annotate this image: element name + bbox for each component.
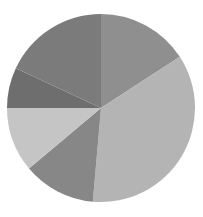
pie-chart-canvas xyxy=(0,0,203,217)
pie-chart-figure: Grayscale pie chart with six slices xyxy=(0,0,203,217)
pie-slices-group xyxy=(7,14,195,202)
